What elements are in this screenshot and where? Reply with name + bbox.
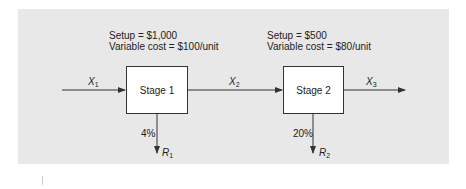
scan-artifact <box>42 176 43 185</box>
stage1-box: Stage 1 <box>126 66 188 114</box>
stage1-reject-rate: 4% <box>141 128 155 140</box>
reject-r2-label: R2 <box>319 147 330 162</box>
stage2-label: Stage 2 <box>296 85 330 96</box>
stage2-box: Stage 2 <box>283 66 344 114</box>
stage2-reject-rate: 20% <box>293 128 313 140</box>
flow-x2-label: X2 <box>229 76 240 91</box>
flow-x3-label: X3 <box>366 76 377 91</box>
flow-arrows <box>0 0 466 189</box>
stage1-variable-cost-label: Variable cost = $100/unit <box>109 41 219 53</box>
flow-x1-label: X1 <box>88 76 99 91</box>
stage1-label: Stage 1 <box>140 85 174 96</box>
reject-r1-label: R1 <box>162 147 173 162</box>
stage2-variable-cost-label: Variable cost = $80/unit <box>267 41 371 53</box>
